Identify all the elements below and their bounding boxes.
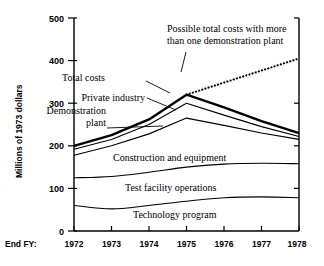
annotations-group: Possible total costs with more than one …: [47, 23, 287, 220]
annotation-demonstration-line2: plant: [86, 117, 106, 128]
y-tick-label-500: 500: [49, 14, 64, 24]
annotation-projection-line1: Possible total costs with more: [167, 23, 287, 34]
band-label-construction-and-equipment: Construction and equipment: [113, 152, 227, 163]
y-tick-labels: 500 400 300 200 100 0: [49, 14, 64, 237]
band-label-technology-program: Technology program: [133, 209, 217, 220]
annotation-total-costs: Total costs: [62, 72, 105, 83]
x-tick-label-1973: 1973: [102, 239, 121, 249]
chart-figure: 500 400 300 200 100 0 Millions of 1973 d…: [0, 0, 324, 266]
x-tick-label-1974: 1974: [140, 239, 159, 249]
band-label-test-facility-operations: Test facility operations: [125, 182, 217, 193]
series-possible-total-costs-projection: [187, 58, 300, 94]
x-tick-labels: End FY: 1972 1973 1974 1975 1976 1977 19…: [5, 239, 307, 249]
x-axis-prefix-end-fy: End FY:: [5, 239, 37, 249]
chart-svg: 500 400 300 200 100 0 Millions of 1973 d…: [0, 0, 324, 266]
y-tick-label-0: 0: [59, 227, 64, 237]
leader-projection: [181, 52, 186, 72]
annotation-demonstration-line1: Demonstration: [47, 105, 106, 116]
series-test-facility-operations: [74, 163, 299, 177]
y-axis-title: Millions of 1973 dollars: [14, 84, 24, 178]
x-tick-label-1976: 1976: [215, 239, 234, 249]
x-tick-label-1977: 1977: [252, 239, 271, 249]
leader-total-costs: [146, 81, 170, 93]
series-private-industry: [74, 103, 299, 149]
x-tick-label-1978: 1978: [288, 239, 307, 249]
x-tick-label-1975: 1975: [177, 239, 196, 249]
series-technology-program: [74, 197, 299, 209]
y-tick-label-200: 200: [49, 141, 64, 151]
y-tick-label-100: 100: [49, 184, 64, 194]
y-tick-label-400: 400: [49, 56, 64, 66]
x-tick-label-1972: 1972: [65, 239, 84, 249]
leader-lines-group: [107, 52, 186, 128]
annotation-private-industry: Private industry: [81, 92, 145, 103]
annotation-projection-line2: than one demonstration plant: [167, 35, 284, 46]
